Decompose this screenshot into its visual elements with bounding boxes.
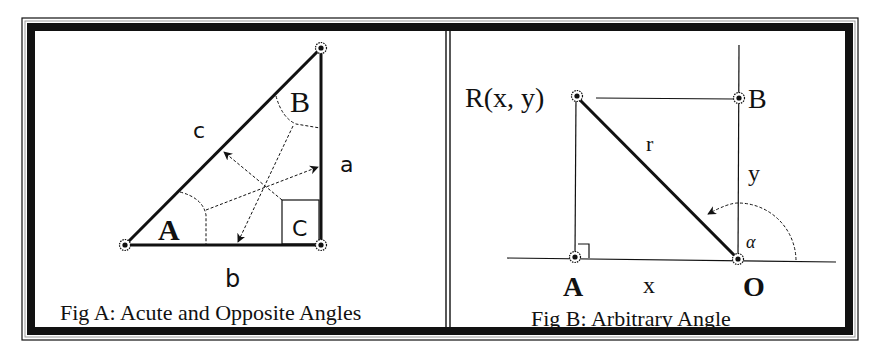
- segment-rb: [596, 98, 734, 99]
- segment-r: [577, 97, 738, 259]
- point-label-a: A: [563, 271, 584, 302]
- arrow-a-to-a: [206, 167, 318, 210]
- vertical-axis: [738, 45, 739, 260]
- caption-fig-b: Fig B: Arbitrary Angle: [531, 306, 731, 331]
- point-o: [733, 254, 744, 265]
- side-label-a: a: [340, 152, 353, 177]
- vertex-b: [316, 43, 327, 54]
- vertex-a: [120, 240, 131, 251]
- angle-label-alpha: α: [746, 232, 756, 252]
- point-label-b: B: [748, 83, 767, 114]
- point-label-o: O: [743, 271, 765, 302]
- point-a: [570, 252, 581, 263]
- side-label-b: b: [225, 265, 240, 293]
- figure-a: A B C c a b Fig A: Acute and Opposite An…: [60, 43, 361, 326]
- point-r: [572, 91, 583, 102]
- angle-label-a: A: [158, 213, 180, 246]
- horizontal-axis: [507, 258, 836, 262]
- side-label-c: c: [193, 118, 205, 143]
- point-b: [734, 93, 745, 104]
- segment-label-x: x: [643, 272, 655, 298]
- outer-frame: [22, 18, 858, 340]
- arrow-b-to-b: [238, 126, 293, 242]
- figure-b: R(x, y) B A O r y x α Fig B: Arbitrary A…: [465, 45, 836, 331]
- segment-ra: [575, 96, 576, 257]
- angle-label-c: C: [292, 216, 307, 241]
- arrow-c-to-c: [224, 152, 282, 200]
- segment-label-y: y: [748, 160, 760, 186]
- caption-fig-a: Fig A: Acute and Opposite Angles: [60, 300, 361, 325]
- angle-a-arc: [180, 192, 206, 244]
- panel-divider: [446, 31, 450, 327]
- diagram-canvas: A B C c a b Fig A: Acute and Opposite An…: [0, 0, 876, 360]
- segment-label-r: r: [646, 131, 654, 156]
- point-label-r: R(x, y): [465, 82, 544, 113]
- angle-label-b: B: [290, 85, 310, 118]
- vertex-c: [316, 240, 327, 251]
